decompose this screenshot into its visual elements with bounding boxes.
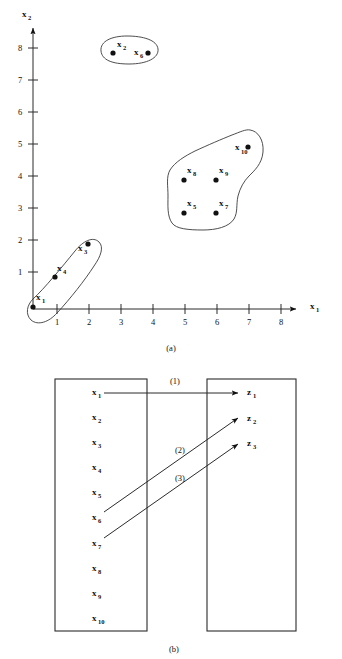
point-x2[interactable]: x 2 (110, 39, 126, 56)
x-tick-label-6: 6 (215, 317, 219, 327)
y-tick-label-3: 3 (18, 203, 22, 213)
y-tick-label-1: 1 (18, 267, 22, 277)
list-item-z3[interactable]: z 3 (247, 438, 257, 450)
svg-text:4: 4 (98, 467, 102, 474)
svg-text:x: x (36, 292, 41, 302)
point-x8[interactable]: x 8 (181, 165, 197, 183)
figure-root: 1 2 3 4 5 6 7 8 x 2 (0, 0, 342, 659)
svg-text:x: x (117, 39, 122, 49)
svg-text:4: 4 (63, 268, 67, 275)
svg-text:x: x (187, 198, 192, 208)
cluster-top-outline (101, 36, 158, 64)
list-item-x2[interactable]: x 2 (92, 412, 101, 424)
x-tick-label-3: 3 (119, 317, 123, 327)
mapping-arrows: (1) (2) (3) (104, 376, 238, 538)
svg-text:x: x (92, 487, 97, 497)
panel-a-scatter: 1 2 3 4 5 6 7 8 x 2 (18, 9, 319, 353)
svg-text:10: 10 (241, 148, 248, 155)
list-item-x6[interactable]: x 6 (92, 512, 102, 524)
svg-text:2: 2 (253, 418, 256, 425)
svg-text:9: 9 (98, 593, 102, 600)
list-item-x9[interactable]: x 9 (92, 588, 102, 600)
y-axis-title: x 2 (22, 9, 31, 21)
y-tick-label-4: 4 (18, 171, 23, 181)
svg-text:x: x (92, 613, 97, 623)
svg-text:1: 1 (316, 306, 319, 313)
point-x6[interactable]: x 6 (134, 47, 151, 59)
list-item-x3[interactable]: x 3 (92, 437, 102, 449)
point-x3[interactable]: x 3 (78, 241, 91, 255)
list-item-x5[interactable]: x 5 (92, 487, 102, 499)
x-tick-label-8: 8 (279, 317, 283, 327)
svg-text:x: x (187, 165, 192, 175)
svg-text:3: 3 (253, 443, 257, 450)
svg-text:x: x (219, 165, 224, 175)
svg-text:10: 10 (98, 618, 105, 625)
svg-text:x: x (134, 47, 139, 57)
svg-text:z: z (247, 387, 251, 397)
x-axis: 1 2 3 4 5 6 7 8 x 1 (33, 301, 319, 327)
arrow-2 (104, 418, 238, 512)
arrow-2-label: (2) (175, 445, 185, 455)
svg-text:2: 2 (123, 44, 126, 51)
svg-text:x: x (92, 563, 97, 573)
svg-text:5: 5 (98, 492, 102, 499)
cluster-outlines (27, 36, 263, 323)
svg-text:x: x (92, 512, 97, 522)
svg-text:5: 5 (193, 203, 197, 210)
svg-text:1: 1 (42, 297, 45, 304)
y-tick-label-2: 2 (18, 235, 22, 245)
list-item-z1[interactable]: z 1 (247, 387, 256, 399)
svg-text:x: x (310, 301, 315, 311)
list-item-z2[interactable]: z 2 (247, 413, 256, 425)
svg-text:2: 2 (98, 417, 101, 424)
right-box-items: z 1 z 2 z 3 (247, 387, 257, 450)
svg-text:x: x (78, 243, 83, 253)
point-x10[interactable]: x 10 (235, 142, 251, 155)
svg-text:x: x (57, 263, 62, 273)
list-item-x7[interactable]: x 7 (92, 538, 102, 550)
svg-text:z: z (247, 438, 251, 448)
svg-text:z: z (247, 413, 251, 423)
svg-text:x: x (92, 412, 97, 422)
right-box (207, 379, 296, 631)
left-box-items: x 1 x 2 x 3 x 4 x 5 x 6 (92, 387, 105, 625)
x-axis-title: x 1 (310, 301, 319, 313)
x-tick-label-7: 7 (247, 317, 251, 327)
svg-text:x: x (92, 387, 97, 397)
svg-text:8: 8 (98, 568, 102, 575)
arrow-3 (104, 444, 238, 538)
panel-a-caption: (a) (166, 343, 176, 353)
y-tick-label-8: 8 (18, 43, 22, 53)
x-tick-label-5: 5 (183, 317, 187, 327)
point-x9[interactable]: x 9 (213, 165, 229, 183)
point-x5[interactable]: x 5 (181, 198, 197, 216)
svg-text:9: 9 (225, 170, 229, 177)
panel-b-mapping: x 1 x 2 x 3 x 4 x 5 x 6 (55, 376, 296, 654)
svg-text:6: 6 (98, 517, 102, 524)
svg-text:3: 3 (84, 248, 88, 255)
svg-text:7: 7 (225, 203, 229, 210)
y-tick-label-7: 7 (18, 75, 22, 85)
svg-text:1: 1 (98, 392, 101, 399)
svg-text:7: 7 (98, 543, 102, 550)
point-x4[interactable]: x 4 (52, 263, 67, 280)
list-item-x4[interactable]: x 4 (92, 462, 102, 474)
arrow-3-label: (3) (175, 473, 185, 483)
svg-text:3: 3 (98, 442, 102, 449)
svg-text:x: x (92, 588, 97, 598)
svg-text:2: 2 (28, 14, 31, 21)
svg-text:6: 6 (140, 52, 144, 59)
svg-text:8: 8 (193, 170, 197, 177)
point-x7[interactable]: x 7 (213, 198, 229, 216)
y-axis: 1 2 3 4 5 6 7 8 x 2 (18, 9, 38, 309)
svg-text:x: x (235, 142, 240, 152)
svg-text:x: x (92, 538, 97, 548)
arrow-1-label: (1) (170, 376, 180, 386)
list-item-x8[interactable]: x 8 (92, 563, 102, 575)
svg-text:x: x (22, 9, 27, 19)
list-item-x10[interactable]: x 10 (92, 613, 105, 625)
list-item-x1[interactable]: x 1 (92, 387, 101, 399)
x-tick-label-2: 2 (87, 317, 91, 327)
data-points: x 1 x 2 x 6 x 3 x 4 (30, 39, 250, 310)
